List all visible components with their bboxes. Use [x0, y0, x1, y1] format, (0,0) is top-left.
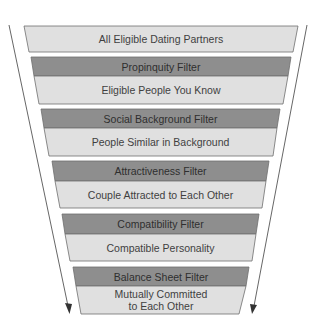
result-label-5: Mutually Committed to Each Other: [76, 286, 246, 314]
filter-label-4: Compatibility Filter: [62, 214, 259, 234]
result-label-2: People Similar in Background: [44, 128, 277, 156]
result-label-5-line-2: to Each Other: [129, 300, 194, 312]
funnel-diagram: All Eligible Dating Partners Propinquity…: [0, 0, 316, 331]
filter-label-3: Attractiveness Filter: [52, 161, 269, 181]
filter-label-1: Propinquity Filter: [31, 57, 291, 76]
result-label-5-line-1: Mutually Committed: [115, 288, 208, 300]
result-label-3: Couple Attracted to Each Other: [55, 181, 266, 208]
result-label-4: Compatible Personality: [65, 234, 256, 261]
result-label-1: Eligible People You Know: [34, 76, 288, 104]
filter-label-5: Balance Sheet Filter: [73, 267, 249, 286]
top-stage-label: All Eligible Dating Partners: [24, 26, 298, 52]
filter-label-2: Social Background Filter: [41, 109, 280, 128]
